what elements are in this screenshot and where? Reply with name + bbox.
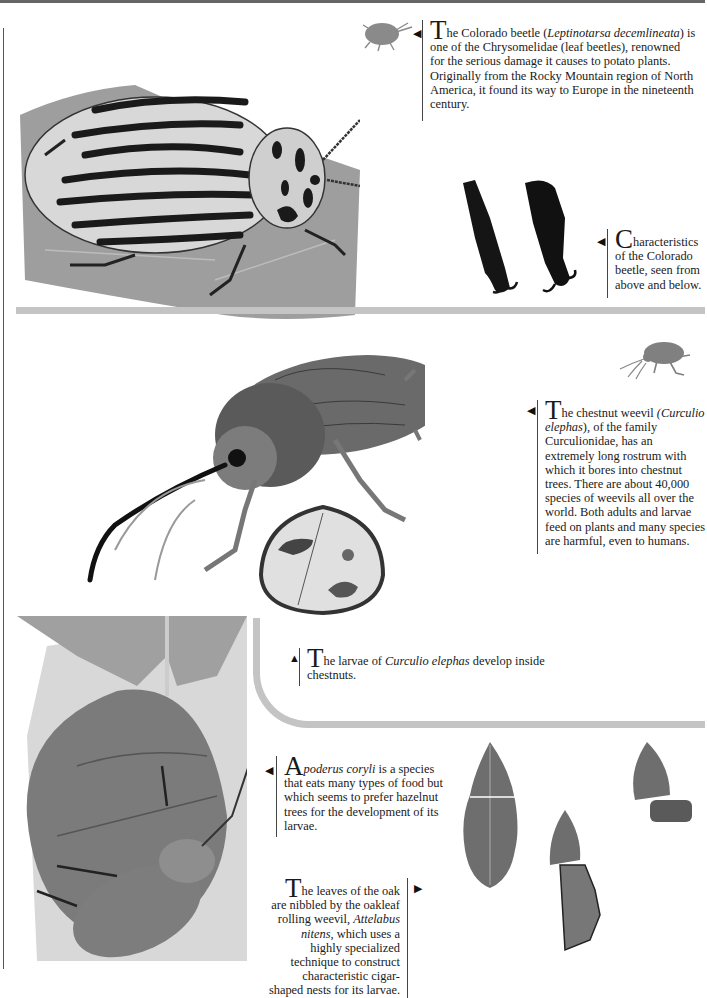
pointer-left-icon: ◀: [265, 764, 273, 777]
top-rule: [0, 0, 705, 3]
weevil-silhouette-icon: [612, 333, 697, 383]
caption-oak-leaves: The leaves of the oak are nibbled by the…: [268, 878, 408, 998]
colorado-beetle-silhouette-icon: [360, 14, 416, 54]
chestnut-cross-section-illustration: [258, 505, 388, 615]
pointer-left-icon: ◀: [527, 404, 535, 417]
oak-leaves-illustration: [460, 740, 705, 960]
apoderus-on-leaf-illustration: [17, 616, 247, 961]
colorado-beetle-illustration: [15, 80, 360, 325]
left-margin-rule: [3, 28, 4, 969]
caption-colorado-beetle: The Colorado beetle (Leptinotarsa deceml…: [422, 20, 697, 121]
caption-apoderus: Apoderus coryli is a species that eats m…: [276, 756, 444, 837]
pointer-left-icon: ◀: [413, 27, 421, 40]
pointer-left-icon: ◀: [597, 235, 605, 248]
pointer-right-icon: ▶: [414, 882, 422, 895]
beetle-legs-illustration: [455, 178, 590, 298]
caption-characteristics: Characteristics of the Colorado beetle, …: [607, 229, 707, 298]
section-separator: [16, 307, 705, 314]
caption-larvae: The larvae of Curculio elephas develop i…: [299, 648, 559, 686]
caption-chestnut-weevil: The chestnut weevil (Curculio elephas), …: [537, 400, 705, 554]
